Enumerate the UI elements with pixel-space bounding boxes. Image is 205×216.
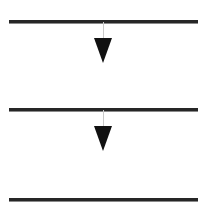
arrow-head-down-icon-2 [94, 126, 112, 151]
horizontal-line-bottom-highlight [9, 201, 198, 202]
arrow-stem-2 [103, 110, 104, 126]
diagram-canvas: Downward arrows between horizontal lines [0, 0, 205, 216]
arrow-stem-1 [103, 22, 104, 38]
arrow-head-down-icon-1 [94, 38, 112, 63]
